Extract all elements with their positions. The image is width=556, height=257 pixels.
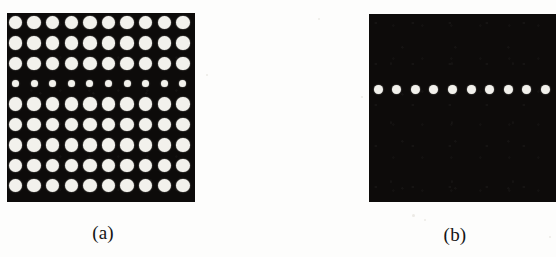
dot [83,138,97,152]
dot [27,16,41,30]
dot [27,138,41,152]
panel-b-plate [369,14,556,202]
dot [176,16,190,30]
dot [411,85,420,94]
dot [83,179,97,193]
dot [467,85,476,94]
dot [83,159,97,173]
paper-speckle [424,219,426,221]
dot [139,138,153,152]
dot [176,138,190,152]
paper-speckle [318,18,320,20]
dot [120,57,134,71]
dot [392,85,401,94]
dot [176,97,190,111]
dot [176,159,190,173]
paper-speckle [412,214,415,217]
dot [176,179,190,193]
dot [83,16,97,30]
paper-speckle [549,236,551,238]
dot [124,80,131,87]
dot [27,57,41,71]
dot [83,97,97,111]
dot [429,85,438,94]
dot [448,85,457,94]
dot [83,36,97,50]
panel-a-caption: (a) [43,222,163,244]
dot [27,97,41,111]
dot [27,159,41,173]
dot [9,36,23,50]
dot [65,159,79,173]
panel-b-background [369,14,556,202]
dot [65,36,79,50]
dot [65,57,79,71]
dot [176,118,190,132]
dot [9,138,23,152]
paper-speckle [361,96,363,98]
dot [102,36,116,50]
dot [522,85,531,94]
dot [158,57,172,71]
dot [504,85,513,94]
dot [158,97,172,111]
dot [65,97,79,111]
dot [158,36,172,50]
dot [158,138,172,152]
dot [139,36,153,50]
paper-speckle [206,74,208,76]
dot [120,16,134,30]
panel-a-plate [7,13,195,202]
dot [158,159,172,173]
dot [27,36,41,50]
dot [161,80,168,87]
dot [374,85,383,94]
dot [120,159,134,173]
dot [46,138,60,152]
dot [176,36,190,50]
dot [120,97,134,111]
dot [31,80,38,87]
dot [65,138,79,152]
dot [83,118,97,132]
dot [541,85,550,94]
dot [102,97,116,111]
dot [120,36,134,50]
dot [83,57,97,71]
dot [9,97,23,111]
dot [46,36,60,50]
dot [68,80,75,87]
dot [485,85,494,94]
dot [120,138,134,152]
panel-b-caption: (b) [395,224,515,246]
dot [102,138,116,152]
dot [120,118,134,132]
figure-root: (a) (b) [0,0,556,257]
dot [27,118,41,132]
dot [176,57,190,71]
